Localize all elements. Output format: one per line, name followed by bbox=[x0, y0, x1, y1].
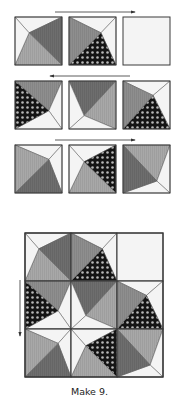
quilt-unit-r3c1 bbox=[25, 329, 71, 377]
quilt-unit-r2c2 bbox=[69, 81, 116, 129]
quilt-unit-r3c2 bbox=[71, 329, 117, 377]
quilt-unit-r3c3 bbox=[123, 145, 170, 193]
quilt-unit-r3c1 bbox=[15, 145, 62, 193]
quilt-unit-r1c3 bbox=[123, 17, 170, 65]
quilt-unit-r1c3 bbox=[117, 233, 163, 281]
quilt-unit-r3c2 bbox=[69, 145, 116, 193]
quilt-assembly-diagram bbox=[0, 0, 179, 414]
quilt-unit-r2c3 bbox=[123, 81, 170, 129]
quilt-unit-r2c3 bbox=[117, 281, 163, 329]
quilt-unit-r2c1 bbox=[15, 81, 62, 129]
quilt-unit-r2c2 bbox=[71, 281, 117, 329]
unit-rows bbox=[15, 17, 170, 193]
quilt-unit-r1c2 bbox=[69, 17, 116, 65]
quilt-unit-r2c1 bbox=[25, 281, 71, 329]
instruction-caption: Make 9. bbox=[0, 386, 179, 397]
assembled-block bbox=[25, 233, 163, 377]
quilt-unit-r3c3 bbox=[117, 329, 163, 377]
quilt-unit-r1c2 bbox=[71, 233, 117, 281]
quilt-unit-r1c1 bbox=[25, 233, 71, 281]
quilt-unit-r1c1 bbox=[15, 17, 62, 65]
